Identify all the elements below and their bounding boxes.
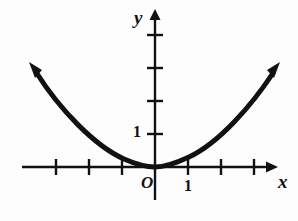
x-axis-label: x xyxy=(278,172,288,191)
y-axis xyxy=(147,9,163,200)
y-axis-label: y xyxy=(134,8,142,27)
figure-container: y x O 1 1 xyxy=(0,0,298,221)
x-axis-tick-label-1: 1 xyxy=(184,178,192,194)
y-axis-tick-label-1: 1 xyxy=(133,124,141,140)
x-axis-arrowhead-icon xyxy=(266,162,278,173)
origin-label: O xyxy=(141,174,153,191)
y-axis-arrowhead-icon xyxy=(150,9,161,20)
